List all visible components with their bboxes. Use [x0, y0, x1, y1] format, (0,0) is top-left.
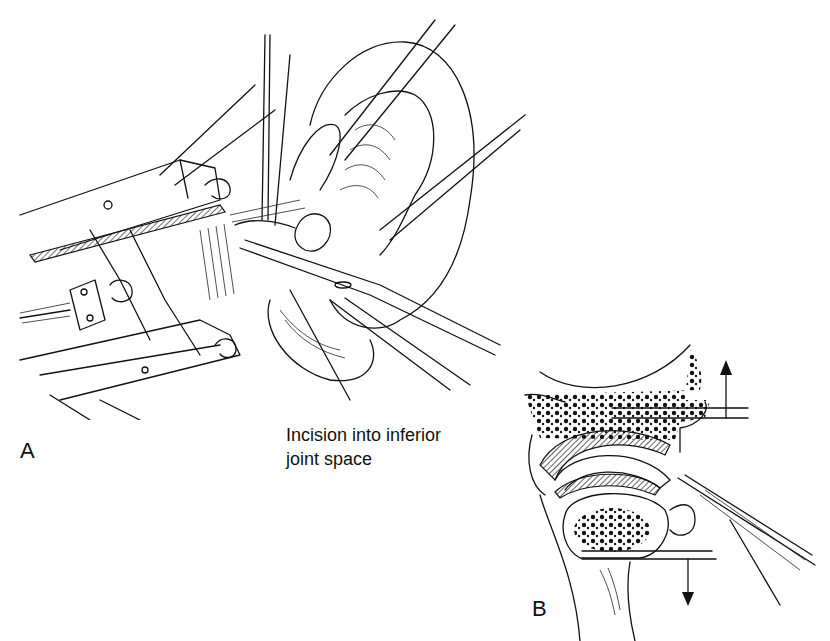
- panel-label-a: A: [20, 440, 35, 462]
- panel-label-b: B: [532, 598, 547, 620]
- annotation-line-1: Incision into inferior: [286, 423, 526, 447]
- joint-cross-section: [500, 330, 830, 641]
- incision-annotation: Incision into inferior joint space: [286, 423, 526, 471]
- annotation-line-2: joint space: [286, 447, 526, 471]
- panel-a-surgical-view: A: [0, 0, 560, 420]
- surgical-illustration: [0, 0, 560, 420]
- panel-b-joint-section: [500, 330, 830, 641]
